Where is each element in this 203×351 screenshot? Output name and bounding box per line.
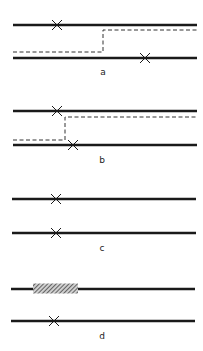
panel-d: d [11, 284, 195, 342]
dashed-recombinant-path [13, 117, 197, 140]
panel-b: b [13, 106, 197, 165]
hatched-region [33, 284, 78, 294]
panel-c: c [12, 194, 196, 253]
chromosome-crossover-diagram: a b c d [0, 0, 203, 351]
panel-label: c [100, 243, 105, 253]
panel-label: b [99, 155, 105, 165]
panel-label: a [100, 67, 106, 77]
panel-a: a [13, 20, 197, 77]
panel-label: d [99, 331, 105, 341]
dashed-recombinant-path [13, 30, 197, 52]
